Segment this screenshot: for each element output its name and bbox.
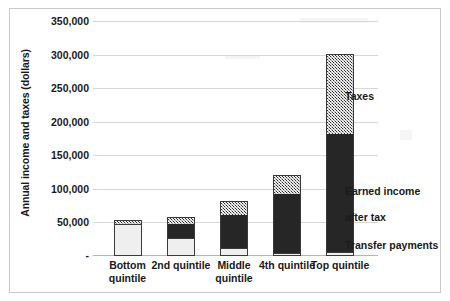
y-tick-300000: 300,000 [29,49,89,61]
y-tick-50000: 50,000 [29,216,89,228]
y-tick-350000: 350,000 [29,15,89,27]
segment-transfer-payments [273,253,301,256]
bar-bottom-quintile [114,220,142,256]
bar-middle-quintile [220,201,248,256]
x-label-line2: quintile [90,272,165,285]
x-axis-category-labels: Bottom quintile 2nd quintile Middle quin… [93,259,378,293]
series-annotation-transfer-payments: Transfer payments [345,239,438,252]
scan-artifact [400,130,412,140]
series-annotation-earned-line1: Earned income [345,185,420,198]
segment-transfer-payments [220,248,248,256]
x-label-line1: Top quintile [303,259,377,272]
bar-2nd-quintile [167,217,195,256]
series-annotation-taxes: Taxes [345,90,374,103]
segment-taxes [167,217,195,224]
chart-screenshot: Annual income and taxes (dollars) 350,00… [0,0,450,301]
y-tick-zero: - [29,249,89,261]
segment-transfer-payments [167,238,195,256]
x-label-line2: quintile [197,272,271,285]
x-label-top-quintile: Top quintile [303,259,377,272]
y-tick-100000: 100,000 [29,183,89,195]
segment-taxes [220,201,248,215]
gridline-350000 [93,21,378,22]
series-annotation-earned-line2: after tax [345,211,420,224]
segment-earned-income-after-tax [273,194,301,253]
segment-transfer-payments [114,224,142,256]
plot-area [93,21,378,256]
segment-transfer-payments [326,252,354,256]
segment-taxes [273,175,301,194]
y-tick-250000: 250,000 [29,82,89,94]
series-annotation-earned-income: Earned income after tax [345,172,420,237]
y-axis-tick-labels: 350,000 300,000 250,000 200,000 150,000 … [27,21,89,256]
bar-4th-quintile [273,175,301,256]
y-tick-150000: 150,000 [29,149,89,161]
segment-earned-income-after-tax [220,215,248,248]
segment-earned-income-after-tax [167,224,195,238]
y-tick-200000: 200,000 [29,116,89,128]
